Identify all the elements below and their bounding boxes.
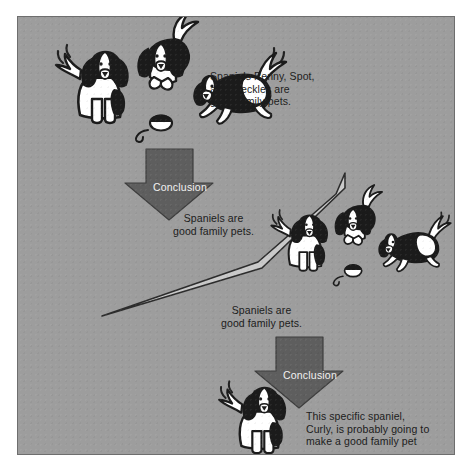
conclusion-arrow-1 xyxy=(125,149,213,220)
premise-1-caption: Spaniels Penny, Spot, and Freckles are g… xyxy=(210,70,315,108)
premise-2-caption: Spaniels are good family pets. xyxy=(221,304,302,329)
conclusion-2-caption: This specific spaniel, Curly, is probabl… xyxy=(306,410,429,448)
inductive-deductive-reasoning-figure: Spaniels Penny, Spot, and Freckles are g… xyxy=(0,0,476,474)
dog-group-middle xyxy=(271,185,450,286)
conclusion-1-caption: Spaniels are good family pets. xyxy=(173,212,254,237)
dog-single-bottom xyxy=(219,381,285,453)
figure-panel: Spaniels Penny, Spot, and Freckles are g… xyxy=(17,16,455,455)
